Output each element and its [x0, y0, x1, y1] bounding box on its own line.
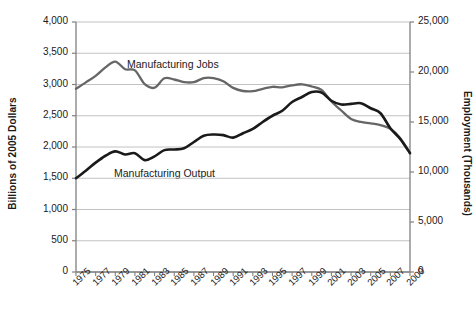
y-axis-right-tick-label: 10,000	[418, 165, 470, 176]
y-axis-left-tick-label: 1,000	[22, 203, 68, 214]
y-axis-left-tick-label: 3,000	[22, 78, 68, 89]
y-axis-left-tick-label: 500	[22, 234, 68, 245]
y-axis-left-tick-label: 1,500	[22, 171, 68, 182]
y-axis-left-tick-label: 4,000	[22, 15, 68, 26]
y-axis-right-tick-label: 25,000	[418, 15, 470, 26]
y-axis-left-tick-label: 2,000	[22, 140, 68, 151]
y-axis-right-tick-label: 0	[418, 265, 470, 276]
y-axis-left-tick-label: 2,500	[22, 109, 68, 120]
y-axis-right-tick-label: 15,000	[418, 115, 470, 126]
y-axis-left-tick-label: 0	[22, 265, 68, 276]
y-axis-left-tick-label: 3,500	[22, 46, 68, 57]
data-series	[76, 62, 410, 179]
y-axis-right-tick-label: 5,000	[418, 215, 470, 226]
gridlines	[76, 22, 410, 272]
y-axis-right-tick-label: 20,000	[418, 65, 470, 76]
chart-container: Billions of 2005 Dollars Employment (Tho…	[0, 0, 475, 319]
tick-marks	[72, 22, 414, 276]
